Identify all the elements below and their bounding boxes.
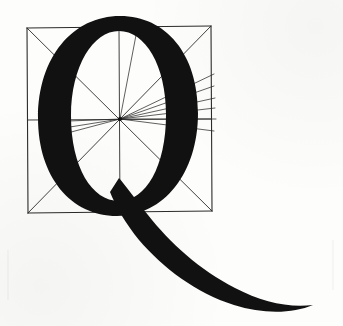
- radiating-center-point: [118, 117, 122, 121]
- figure-canvas: [0, 0, 343, 326]
- letter-q-construction-diagram: [0, 0, 343, 326]
